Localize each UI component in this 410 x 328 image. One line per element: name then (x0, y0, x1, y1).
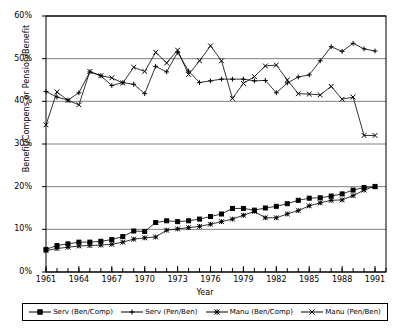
data-point-star (252, 209, 257, 214)
x-tick-label: 1985 (292, 276, 326, 284)
data-point-filled-square (99, 239, 103, 243)
data-point-x (230, 96, 235, 101)
legend-marker-filled-square-icon (29, 307, 51, 317)
data-point-star (373, 184, 378, 189)
data-point-plus (373, 49, 378, 54)
series-serv-pen-ben (44, 41, 378, 103)
data-point-plus (130, 309, 135, 314)
series-manu-pen-ben (44, 43, 378, 137)
data-point-plus (44, 89, 49, 94)
data-point-filled-square (176, 220, 180, 224)
data-point-filled-square (219, 212, 223, 216)
data-point-star (241, 213, 246, 218)
x-tick-label: 1982 (259, 276, 293, 284)
legend-label: Serv (Ben/Comp) (53, 308, 113, 316)
x-tick-label: 1976 (194, 276, 228, 284)
data-point-star (153, 235, 158, 240)
data-point-star (351, 193, 356, 198)
data-point-plus (219, 77, 224, 82)
data-point-star (329, 198, 334, 203)
data-point-filled-square (110, 238, 114, 242)
data-point-star (340, 197, 345, 202)
data-point-star (109, 242, 114, 247)
data-point-star (318, 200, 323, 205)
legend-item-2: Serv (Pen/Ben) (121, 307, 197, 317)
data-point-filled-square (329, 194, 333, 198)
data-point-star (285, 212, 290, 217)
data-point-star (197, 224, 202, 229)
data-point-filled-square (296, 198, 300, 202)
data-point-filled-square (187, 219, 191, 223)
data-point-filled-square (165, 219, 169, 223)
data-point-star (263, 215, 268, 220)
data-point-x (153, 50, 158, 55)
x-tick-label: 1961 (29, 276, 63, 284)
data-point-plus (77, 90, 82, 95)
data-point-star (186, 225, 191, 230)
data-point-plus (164, 69, 169, 74)
data-point-filled-square (340, 192, 344, 196)
data-point-plus (153, 64, 158, 69)
data-point-star (230, 217, 235, 222)
data-point-filled-square (38, 310, 42, 314)
data-point-star (164, 228, 169, 233)
data-point-filled-square (198, 217, 202, 221)
legend-marker-star-icon (206, 307, 228, 317)
data-point-x (252, 74, 257, 79)
data-point-filled-square (307, 196, 311, 200)
data-point-x (142, 69, 147, 74)
data-point-filled-square (77, 240, 81, 244)
plot-area (0, 0, 410, 290)
data-point-x (55, 90, 60, 95)
data-point-x (208, 43, 213, 48)
data-point-filled-square (285, 202, 289, 206)
x-tick-label: 1970 (128, 276, 162, 284)
data-point-star (142, 235, 147, 240)
legend-label: Manu (Pen/Ben) (325, 308, 381, 316)
legend-marker-plus-icon (121, 307, 143, 317)
data-point-star (307, 203, 312, 208)
data-point-plus (241, 77, 246, 82)
data-point-x (164, 61, 169, 66)
x-tick-label: 1973 (161, 276, 195, 284)
data-point-star (274, 215, 279, 220)
series-serv-ben-comp (44, 185, 377, 252)
x-axis-title: Year (0, 288, 410, 297)
data-point-plus (230, 77, 235, 82)
data-point-filled-square (351, 188, 355, 192)
legend-marker-x-icon (301, 307, 323, 317)
data-point-filled-square (230, 206, 234, 210)
data-point-star (120, 240, 125, 245)
data-point-filled-square (132, 229, 136, 233)
data-point-plus (362, 46, 367, 51)
x-tick-label: 1991 (358, 276, 392, 284)
data-point-x (131, 65, 136, 70)
data-point-star (296, 208, 301, 213)
data-point-star (66, 245, 71, 250)
data-point-x (77, 102, 82, 107)
x-tick-label: 1988 (325, 276, 359, 284)
data-point-filled-square (143, 229, 147, 233)
data-point-filled-square (318, 196, 322, 200)
chart-figure: Benefit/Compens or Pension/Benefit 0%10%… (0, 0, 410, 328)
data-point-filled-square (274, 204, 278, 208)
x-tick-label: 1964 (62, 276, 96, 284)
data-point-star (362, 188, 367, 193)
legend-label: Manu (Ben/Comp) (230, 308, 293, 316)
x-tick-label: 1967 (95, 276, 129, 284)
data-point-star (44, 248, 49, 253)
x-tick-label: 1979 (226, 276, 260, 284)
data-point-plus (296, 75, 301, 80)
data-point-star (77, 244, 82, 249)
legend-item-1: Serv (Ben/Comp) (29, 307, 113, 317)
data-point-filled-square (209, 215, 213, 219)
data-point-filled-square (241, 206, 245, 210)
data-point-star (131, 237, 136, 242)
legend-item-3: Manu (Ben/Comp) (206, 307, 293, 317)
chart-legend: Serv (Ben/Comp)Serv (Pen/Ben)Manu (Ben/C… (22, 303, 388, 321)
data-point-star (219, 219, 224, 224)
data-point-star (87, 243, 92, 248)
data-point-filled-square (263, 206, 267, 210)
data-point-plus (208, 78, 213, 83)
legend-label: Serv (Pen/Ben) (145, 308, 197, 316)
